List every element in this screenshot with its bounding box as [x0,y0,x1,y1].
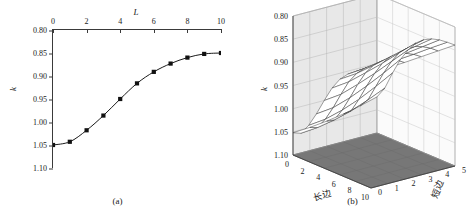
x-tick-label-b: 4 [316,173,320,182]
z-tick-label-b: 0.80 [274,12,288,21]
y-tick-label-b: 2 [412,179,416,188]
y-tick-label-b: 4 [445,170,449,179]
y-tick-label-b: 1 [395,183,399,192]
x-tick-label-a: 10 [217,17,225,26]
panel-b: (b) 0.800.850.900.951.001.051.1002468100… [235,0,470,223]
y-tick-label-a: 1.05 [33,141,47,150]
y-tick-mark-a [49,30,53,31]
x-tick-mark-a [87,29,88,33]
data-point-marker-a [202,52,206,56]
axis-title-y-a: k [8,87,18,91]
z-tick-label-b: 1.05 [274,127,288,136]
z-tick-label-b: 0.95 [274,81,288,90]
data-point-marker-a [118,97,122,101]
y-tick-mark-a [49,145,53,146]
data-line-a [53,53,221,145]
x-tick-label-b: 10 [361,193,369,202]
y-tick-label-a: 1.10 [33,164,47,173]
x-tick-label-a: 4 [118,17,122,26]
x-tick-label-a: 8 [185,17,189,26]
z-tick-label-b: 0.85 [274,35,288,44]
x-tick-label-b: 6 [332,179,336,188]
data-point-marker-a [85,128,89,132]
data-point-marker-a [169,61,173,65]
plot-area-a: 02468100.800.850.900.951.001.051.10 [52,29,221,168]
data-point-marker-a [185,56,189,60]
x-tick-mark-a [53,29,54,33]
z-tick-label-b: 0.90 [274,58,288,67]
data-point-marker-a [101,113,105,117]
axis-title-z-b: k [259,87,269,91]
data-point-marker-a [219,51,221,55]
x-tick-label-a: 2 [85,17,89,26]
x-tick-label-b: 8 [347,186,351,195]
y-tick-label-a: 0.80 [33,26,47,35]
caption-a: (a) [0,196,235,206]
y-tick-label-a: 0.90 [33,72,47,81]
y-tick-mark-a [49,122,53,123]
y-tick-label-b: 0 [378,188,382,197]
x-tick-mark-a [221,29,222,33]
data-point-marker-a [152,70,156,74]
x-tick-mark-a [120,29,121,33]
y-tick-mark-a [49,99,53,100]
y-tick-label-a: 0.95 [33,95,47,104]
figure-container: L k 02468100.800.850.900.951.001.051.10 … [0,0,470,223]
y-tick-mark-a [49,53,53,54]
panel-a: L k 02468100.800.850.900.951.001.051.10 … [0,0,235,223]
data-point-marker-a [53,143,55,147]
x-tick-mark-a [154,29,155,33]
y-tick-mark-a [49,168,53,169]
line-series-a [53,30,221,168]
x-tick-label-b: 0 [285,160,289,169]
data-point-marker-a [135,81,139,85]
surface-plot-b [235,0,470,200]
z-tick-label-b: 1.00 [274,104,288,113]
axis-title-x-a: L [52,7,220,17]
y-tick-mark-a [49,76,53,77]
z-tick-label-b: 1.10 [274,151,288,160]
x-tick-mark-a [187,29,188,33]
x-tick-label-a: 6 [152,17,156,26]
x-tick-label-b: 2 [301,166,305,175]
y-tick-label-a: 1.00 [33,118,47,127]
x-tick-label-a: 0 [51,17,55,26]
y-tick-label-a: 0.85 [33,49,47,58]
data-point-marker-a [68,140,72,144]
y-tick-label-b: 5 [462,166,466,175]
